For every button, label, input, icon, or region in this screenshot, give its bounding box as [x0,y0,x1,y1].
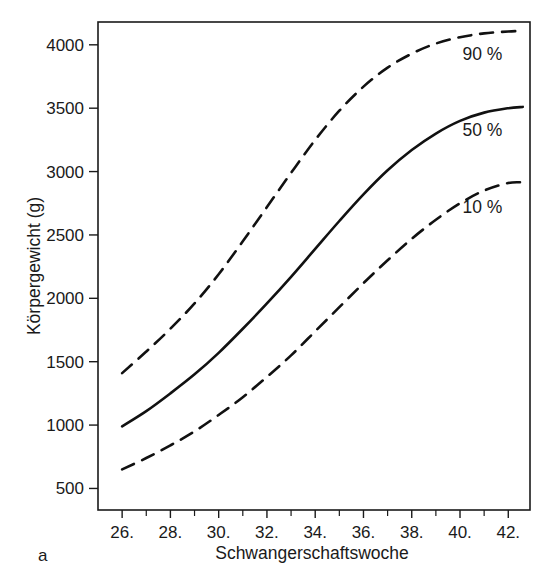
x-tick-label: 28. [159,523,183,542]
y-tick-label: 500 [56,479,84,498]
curve-50 [122,107,523,426]
weight-percentile-chart: 26.28.30.32.34.36.38.40.42. 500100015002… [0,0,554,588]
y-axis-ticks [89,45,98,489]
y-tick-label: 3000 [46,163,84,182]
x-tick-label: 36. [352,523,376,542]
series-label-10: 10 % [462,197,502,217]
y-tick-label: 3500 [46,99,84,118]
x-tick-label: 38. [400,523,424,542]
x-tick-label: 32. [255,523,279,542]
figure-container: 26.28.30.32.34.36.38.40.42. 500100015002… [0,0,554,588]
x-axis-title: Schwangerschaftswoche [215,543,409,563]
plot-frame [98,22,530,510]
x-tick-label: 30. [207,523,231,542]
y-axis-title: Körpergewicht (g) [24,197,44,335]
y-tick-label: 4000 [46,36,84,55]
y-tick-label: 1000 [46,416,84,435]
y-tick-label: 2000 [46,289,84,308]
series-label-90: 90 % [462,44,502,64]
x-tick-label: 42. [496,523,520,542]
series-label-50: 50 % [462,120,502,140]
x-tick-label: 40. [448,523,472,542]
x-tick-label: 34. [303,523,327,542]
curve-10 [122,182,523,469]
y-tick-label: 2500 [46,226,84,245]
panel-label: a [38,546,48,565]
y-axis-tick-labels: 5001000150020002500300035004000 [46,36,84,499]
x-axis-tick-labels: 26.28.30.32.34.36.38.40.42. [110,523,520,542]
x-tick-label: 26. [110,523,134,542]
data-curves [122,31,523,470]
x-axis-ticks [122,510,508,518]
series-labels: 90 %50 %10 % [462,44,502,217]
y-tick-label: 1500 [46,353,84,372]
